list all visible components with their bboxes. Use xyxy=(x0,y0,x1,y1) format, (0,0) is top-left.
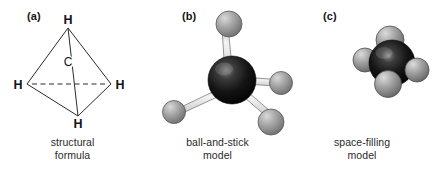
structural-formula-art: H H H H C xyxy=(0,0,145,135)
atom-label-carbon-center: C xyxy=(64,55,73,69)
edge-top-to-right xyxy=(68,28,111,84)
tetrahedron-diagram: H H H H C xyxy=(0,0,145,135)
hydrogen-sphere-top xyxy=(216,11,242,37)
atom-label-hydrogen-right: H xyxy=(115,78,124,92)
atom-label-hydrogen-left: H xyxy=(13,78,22,92)
caption-line-2: model xyxy=(290,149,434,162)
hydrogen-sphere-right xyxy=(405,58,429,82)
panel-space-filling-model: (c) xyxy=(290,0,434,175)
edge-left-to-bottom xyxy=(27,84,78,116)
space-filling-art xyxy=(290,0,434,135)
hydrogen-sphere-lower-left xyxy=(163,101,186,124)
edge-right-to-bottom xyxy=(78,84,111,116)
panel-structural-formula: (a) H H H H C xyxy=(0,0,145,175)
methane-representations-figure: (a) H H H H C xyxy=(0,0,434,175)
caption-line-1: ball-and-stick xyxy=(186,136,249,148)
carbon-sphere-specular-highlight xyxy=(376,47,393,59)
edge-top-to-bottom xyxy=(68,28,78,116)
carbon-sphere-center xyxy=(208,56,256,104)
caption-ball-and-stick-model: ball-and-stick model xyxy=(145,136,290,162)
caption-line-2: formula xyxy=(0,149,145,162)
atom-label-hydrogen-top: H xyxy=(63,13,72,27)
caption-line-1: structural xyxy=(51,136,95,148)
hydrogen-sphere-lower-right xyxy=(258,109,284,135)
caption-structural-formula: structural formula xyxy=(0,136,145,162)
space-filling-diagram xyxy=(290,0,434,135)
carbon-sphere-specular-highlight xyxy=(215,63,233,76)
caption-space-filling-model: space-filling model xyxy=(290,136,434,162)
atom-label-hydrogen-bottom: H xyxy=(73,117,82,131)
hydrogen-sphere-bottom xyxy=(375,71,402,98)
caption-line-1: space-filling xyxy=(334,136,390,148)
ball-and-stick-diagram xyxy=(145,0,290,135)
edge-top-to-left xyxy=(27,28,68,84)
caption-line-2: model xyxy=(145,149,290,162)
panel-ball-and-stick-model: (b) xyxy=(145,0,290,175)
ball-and-stick-art xyxy=(145,0,290,135)
